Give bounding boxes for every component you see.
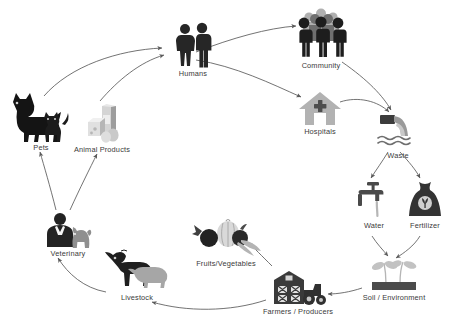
faucet-tap-icon — [355, 180, 393, 220]
dog-cat-icon — [8, 92, 74, 142]
node-label-hospitals: Hospitals — [304, 128, 336, 135]
arrow-animalproducts-to-humans — [100, 55, 164, 101]
node-label-soil: Soil / Environment — [363, 294, 426, 301]
node-fertilizer[interactable]: Fertilizer — [406, 180, 444, 229]
node-community[interactable]: Community — [290, 8, 352, 69]
arrow-livestock-to-veterinary — [58, 258, 106, 292]
node-soil[interactable]: Soil / Environment — [366, 254, 422, 301]
barn-tractor-icon — [268, 268, 328, 306]
node-waste[interactable]: Waste — [375, 112, 421, 159]
diagram-canvas: Humans Community — [0, 0, 455, 325]
node-fruitsvegetables[interactable]: Fruits/Vegetables — [190, 218, 262, 267]
waste-pipe-water-icon — [375, 112, 421, 150]
node-humans[interactable]: Humans — [168, 22, 218, 77]
node-label-waste: Waste — [387, 152, 408, 159]
node-label-animalproducts: Animal Products — [74, 146, 130, 153]
node-veterinary[interactable]: Veterinary — [44, 212, 92, 257]
node-label-pets: Pets — [33, 144, 48, 151]
arrow-veterinary-to-pets — [40, 152, 56, 210]
node-hospitals[interactable]: Hospitals — [296, 90, 344, 135]
node-label-veterinary: Veterinary — [51, 250, 86, 257]
node-animalproducts[interactable]: Animal Products — [80, 104, 124, 153]
arrow-soil-to-farmers — [328, 288, 362, 294]
vegetables-icon — [190, 218, 262, 258]
node-label-livestock: Livestock — [121, 294, 153, 301]
arrow-hospitals-to-waste — [340, 99, 389, 112]
node-label-fertilizer: Fertilizer — [410, 222, 440, 229]
vet-with-pet-icon — [44, 212, 92, 248]
hospital-house-icon — [296, 90, 344, 126]
node-label-humans: Humans — [179, 70, 207, 77]
node-pets[interactable]: Pets — [8, 92, 74, 151]
node-label-water: Water — [364, 222, 384, 229]
node-label-fruitsvegetables: Fruits/Vegetables — [196, 260, 256, 267]
node-water[interactable]: Water — [355, 180, 393, 229]
crowd-group-icon — [290, 8, 352, 60]
seedling-soil-icon — [366, 254, 422, 292]
arrow-pets-to-humans — [44, 48, 162, 96]
node-label-farmers: Farmers / Producers — [263, 308, 333, 315]
arrow-veterinary-to-animalprod — [70, 154, 97, 210]
two-people-icon — [168, 22, 218, 68]
node-farmers[interactable]: Farmers / Producers — [268, 268, 328, 315]
node-livestock[interactable]: Livestock — [104, 248, 170, 301]
cow-pig-icon — [104, 248, 170, 292]
fertilizer-sack-icon — [406, 180, 444, 220]
arrow-water-to-soil — [372, 236, 388, 256]
dairy-eggs-icon — [80, 104, 124, 144]
node-label-community: Community — [302, 62, 341, 69]
